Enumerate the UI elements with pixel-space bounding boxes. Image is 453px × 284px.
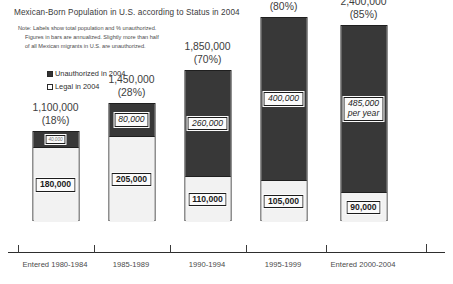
bar-segment-unauthorized[interactable]: 80,000 — [109, 104, 154, 137]
x-axis-tick — [426, 244, 427, 252]
bar-segment-unauthorized[interactable]: 260,000 — [185, 71, 230, 177]
bar-segment-legal[interactable]: 205,000 — [109, 137, 154, 222]
bar-total-label: 2,500,000(80%) — [260, 0, 306, 13]
bar-stack[interactable]: 80,000205,000 — [108, 103, 155, 221]
bar-segment-label-unauthorized: 400,000 — [264, 92, 303, 106]
bar-stack[interactable]: 40,000180,000 — [32, 131, 79, 221]
bar-segment-label-unauthorized: 40,000 — [45, 135, 65, 143]
bar-stack[interactable]: 260,000110,000 — [184, 70, 231, 221]
bar-segment-label-legal: 205,000 — [112, 173, 151, 187]
bar-segment-unauthorized[interactable]: 400,000 — [261, 18, 306, 181]
bar-percent-unauthorized: (28%) — [108, 87, 154, 99]
bar-total-label: 1,850,000(70%) — [184, 41, 230, 66]
bar-percent-unauthorized: (70%) — [184, 54, 230, 66]
bar-segment-label-unauthorized: 485,000per year — [344, 97, 384, 120]
bar-stack[interactable]: 400,000105,000 — [260, 17, 307, 221]
bar-segment-label-legal: 110,000 — [188, 193, 227, 207]
x-axis-line — [8, 252, 445, 253]
bar-segment-label-unauthorized: 260,000 — [188, 117, 227, 131]
plot-area: 1,100,000(18%)40,000180,0001,450,000(28%… — [0, 0, 453, 253]
x-axis-tick — [246, 245, 247, 253]
x-axis-tick — [94, 245, 95, 253]
bar-segment-label-unauthorized: 80,000 — [114, 113, 148, 127]
x-axis-tick — [170, 245, 171, 253]
bar-group: 2,400,000(85%)485,000per year90,000 — [326, 0, 401, 221]
bar-segment-legal[interactable]: 105,000 — [261, 181, 306, 222]
bar-total-label: 1,100,000(18%) — [32, 102, 78, 127]
bar-segment-label-legal: 90,000 — [346, 201, 380, 215]
bar-total-label: 1,450,000(28%) — [108, 74, 154, 99]
bar-percent-unauthorized: (18%) — [32, 115, 78, 127]
x-axis-tick — [326, 245, 327, 253]
bar-group: 1,850,000(70%)260,000110,000 — [170, 0, 245, 221]
x-axis-tick — [18, 245, 19, 253]
bar-group: 1,450,000(28%)80,000205,000 — [94, 0, 169, 221]
bar-total-value: 1,450,000 — [108, 74, 154, 85]
bar-percent-unauthorized: (80%) — [260, 1, 306, 13]
bar-total-value: 1,850,000 — [184, 41, 230, 52]
bar-total-value: 1,100,000 — [32, 102, 78, 113]
bar-segment-legal[interactable]: 180,000 — [33, 148, 78, 222]
stacked-bar-chart: Mexican-Born Population in U.S. accordin… — [0, 0, 453, 284]
x-axis-category-label: Entered 2000-2004 — [308, 260, 418, 269]
bar-segment-unauthorized[interactable]: 485,000per year — [341, 26, 386, 193]
bar-segment-label-legal: 105,000 — [264, 195, 303, 209]
bar-stack[interactable]: 485,000per year90,000 — [340, 25, 387, 221]
bar-group: 2,500,000(80%)400,000105,000 — [246, 0, 321, 221]
bar-segment-legal[interactable]: 110,000 — [185, 177, 230, 222]
bar-total-label: 2,400,000(85%) — [340, 0, 386, 21]
bar-segment-label-legal: 180,000 — [36, 178, 75, 192]
bar-segment-sublabel: per year — [348, 109, 380, 119]
bar-percent-unauthorized: (85%) — [340, 9, 386, 21]
bar-total-value: 2,400,000 — [340, 0, 386, 7]
bar-segment-legal[interactable]: 90,000 — [341, 193, 386, 222]
bar-segment-unauthorized[interactable]: 40,000 — [33, 132, 78, 148]
bar-group: 1,100,000(18%)40,000180,000 — [18, 0, 93, 221]
